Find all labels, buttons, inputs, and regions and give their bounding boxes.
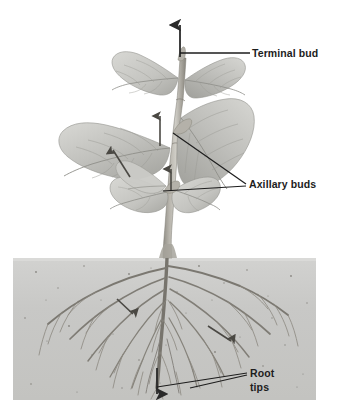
axillary-buds-label: Axillary buds [249,178,316,190]
terminal-bud-label: Terminal bud [252,47,318,59]
plant-growth-diagram: Terminal bud Axillary buds Root tips [0,0,337,418]
root-tips-label-line1: Root [250,367,275,379]
root-tips-label-line2: tips [250,381,269,393]
